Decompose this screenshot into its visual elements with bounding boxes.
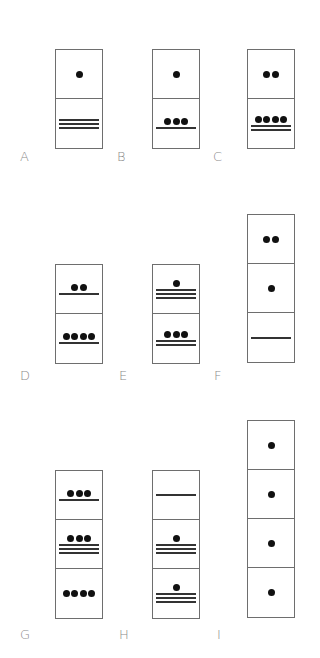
maya-numeral <box>156 331 196 346</box>
bar-icon <box>59 127 99 129</box>
maya-numeral <box>173 71 180 78</box>
numeral-cell <box>56 569 102 618</box>
bar-group <box>156 544 196 554</box>
dot-icon <box>268 442 275 449</box>
bar-icon <box>156 552 196 554</box>
numeral-cell <box>248 568 294 617</box>
bar-icon <box>156 289 196 291</box>
numeral-cell <box>153 50 199 99</box>
dot-group <box>268 540 275 547</box>
maya-numeral <box>59 119 99 129</box>
dot-icon <box>173 118 180 125</box>
bar-icon <box>156 293 196 295</box>
numeral-figure-e <box>152 264 200 364</box>
maya-numeral <box>251 116 291 131</box>
numeral-cell <box>248 264 294 313</box>
dot-icon <box>67 490 74 497</box>
maya-numeral <box>268 491 275 498</box>
maya-numeral <box>76 71 83 78</box>
figure-label: H <box>119 628 129 641</box>
bar-group <box>156 593 196 603</box>
dot-icon <box>80 333 87 340</box>
dot-group <box>268 442 275 449</box>
bar-group <box>156 289 196 299</box>
bar-icon <box>156 340 196 342</box>
dot-icon <box>173 280 180 287</box>
dot-group <box>268 491 275 498</box>
dot-icon <box>84 535 91 542</box>
dot-group <box>263 236 279 243</box>
dot-icon <box>80 590 87 597</box>
numeral-cell <box>248 470 294 519</box>
dot-icon <box>268 540 275 547</box>
figure-label: I <box>217 628 221 641</box>
dot-group <box>63 333 96 340</box>
numeral-cell <box>56 265 102 314</box>
dot-icon <box>272 236 279 243</box>
dot-icon <box>280 116 287 123</box>
bar-icon <box>251 129 291 131</box>
numeral-cell <box>56 99 102 148</box>
dot-icon <box>76 71 83 78</box>
dot-group <box>268 285 275 292</box>
maya-numeral <box>59 284 99 295</box>
dot-icon <box>164 331 171 338</box>
bar-icon <box>156 597 196 599</box>
dot-icon <box>80 284 87 291</box>
bar-icon <box>156 494 196 496</box>
dot-group <box>173 584 180 591</box>
dot-icon <box>268 589 275 596</box>
figure-label: D <box>20 369 30 382</box>
numeral-cell <box>248 519 294 568</box>
numeral-cell <box>56 314 102 363</box>
numeral-figure-f <box>247 214 295 363</box>
numeral-figure-b <box>152 49 200 149</box>
bar-group <box>59 499 99 501</box>
maya-numeral <box>59 333 99 344</box>
bar-icon <box>59 499 99 501</box>
dot-icon <box>67 535 74 542</box>
numeral-cell <box>153 314 199 363</box>
numeral-cell <box>56 471 102 520</box>
dot-icon <box>272 116 279 123</box>
bar-icon <box>156 593 196 595</box>
dot-group <box>76 71 83 78</box>
bar-icon <box>251 337 291 339</box>
bar-icon <box>59 119 99 121</box>
numeral-figure-c <box>247 49 295 149</box>
dot-icon <box>173 584 180 591</box>
bar-icon <box>59 548 99 550</box>
dot-icon <box>263 236 270 243</box>
numeral-figure-h <box>152 470 200 619</box>
dot-icon <box>272 71 279 78</box>
dot-group <box>173 71 180 78</box>
figure-label: E <box>119 369 127 382</box>
maya-numeral <box>156 584 196 603</box>
maya-numeral <box>263 71 279 78</box>
dot-group <box>263 71 279 78</box>
bar-group <box>251 125 291 131</box>
dot-icon <box>88 590 95 597</box>
figure-label: B <box>117 150 126 163</box>
numeral-cell <box>56 520 102 569</box>
dot-icon <box>63 590 70 597</box>
dot-group <box>71 284 87 291</box>
dot-group <box>173 280 180 287</box>
dot-icon <box>181 331 188 338</box>
maya-numeral <box>59 490 99 501</box>
bar-group <box>59 544 99 554</box>
dot-icon <box>268 491 275 498</box>
bar-group <box>59 293 99 295</box>
dot-group <box>63 590 96 597</box>
dot-icon <box>71 590 78 597</box>
maya-numeral <box>268 540 275 547</box>
dot-icon <box>263 116 270 123</box>
numeral-figure-d <box>55 264 103 364</box>
numeral-figure-i <box>247 420 295 618</box>
bar-icon <box>156 601 196 603</box>
maya-numeral <box>263 236 279 243</box>
maya-numeral <box>63 590 96 597</box>
dot-icon <box>173 331 180 338</box>
dot-group <box>268 589 275 596</box>
maya-numeral <box>156 280 196 299</box>
